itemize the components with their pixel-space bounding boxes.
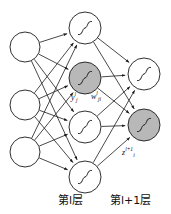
edge-in-3-to-l-2	[35, 93, 73, 140]
node-l-4	[69, 161, 101, 193]
edge-group-layer-l-to-layer-l1	[93, 38, 134, 166]
edge-l-1-to-o-1	[98, 38, 129, 62]
node-o-1	[128, 58, 160, 90]
edge-in-1-to-l-1	[40, 34, 67, 43]
edge-l-3-to-o-1	[97, 87, 130, 116]
edge-l-3-to-o-2	[101, 126, 125, 127]
node-o-2	[128, 109, 160, 141]
edge-l-2-to-o-1	[101, 75, 125, 77]
node-l-2	[69, 62, 101, 94]
node-l-1	[69, 12, 101, 44]
node-in-2	[10, 90, 40, 120]
edge-in-2-to-l-3	[40, 110, 68, 120]
node-in-1	[10, 32, 40, 62]
edge-in-3-to-l-3	[39, 134, 67, 146]
node-circle	[10, 90, 40, 120]
network-canvas	[0, 0, 171, 214]
node-group	[10, 12, 160, 193]
node-circle	[10, 137, 40, 167]
node-circle	[10, 32, 40, 62]
edge-in-1-to-l-2	[39, 54, 69, 69]
edge-l-4-to-o-2	[97, 137, 130, 166]
node-l-3	[69, 111, 101, 143]
edge-in-3-to-l-4	[39, 158, 67, 170]
node-in-3	[10, 137, 40, 167]
neural-network-figure: ylj wlji zl+1i 第l层 第l+1层	[0, 0, 171, 214]
